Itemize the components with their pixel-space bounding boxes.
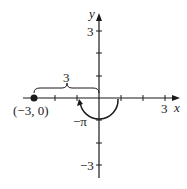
y-axis-label: y	[87, 6, 95, 21]
curve-arrow-icon	[77, 99, 83, 106]
y-axis-arrow-icon	[96, 13, 102, 21]
x-axis-label: x	[173, 100, 180, 115]
point-label: (−3, 0)	[13, 103, 49, 118]
diagram-canvas: y x 3 −3 3 (−3, 0) 3 −π	[0, 0, 187, 189]
y-tick-label-bottom: −3	[80, 158, 94, 173]
point-marker	[31, 95, 38, 102]
y-tick-label-top: 3	[87, 24, 94, 39]
brace-label: 3	[63, 70, 70, 85]
minimum-label: −π	[73, 114, 87, 129]
x-tick-label-right: 3	[161, 101, 168, 116]
